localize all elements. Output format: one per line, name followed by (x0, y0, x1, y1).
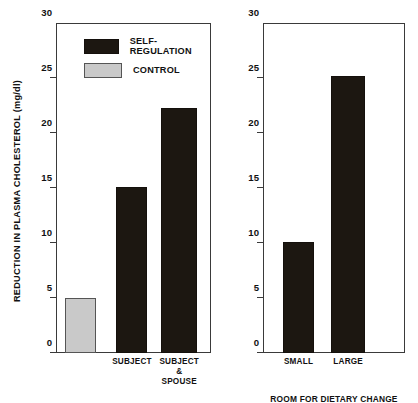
y-tick-label-10: 10 (41, 227, 52, 238)
bars-right (263, 23, 405, 353)
figure: REDUCTION IN PLASMA CHOLESTEROL (mg/dl) … (0, 0, 418, 403)
bar-control (65, 298, 96, 353)
y-tick-label-10-right: 10 (248, 227, 259, 238)
y-tick-label-20: 20 (41, 117, 52, 128)
x-category-small: SMALL (284, 357, 313, 367)
bar-small (283, 242, 314, 353)
x-category-subject-and-spouse: SUBJECT & SPOUSE (159, 357, 199, 387)
y-axis-title: REDUCTION IN PLASMA CHOLESTEROL (mg/dl) (12, 36, 22, 346)
y-tick-label-20-right: 20 (248, 117, 259, 128)
chart-panel-left: 0 5 10 15 20 25 30 SELF-REGULATION CONTR… (56, 23, 211, 353)
y-tick-label-0-right: 0 (254, 337, 259, 348)
bar-large (331, 76, 365, 353)
bar-subject (116, 187, 147, 353)
y-tick-label-25-right: 25 (248, 62, 259, 73)
y-tick-label-25: 25 (41, 62, 52, 73)
y-tick-label-5-right: 5 (254, 282, 259, 293)
x-category-large: LARGE (333, 357, 363, 367)
bar-subject-and-spouse (161, 108, 197, 353)
y-tick-label-30-right: 30 (248, 7, 259, 18)
y-tick-label-30: 30 (41, 7, 52, 18)
x-axis-title-right: ROOM FOR DIETARY CHANGE (263, 394, 405, 403)
y-tick-label-0: 0 (47, 337, 52, 348)
x-category-subject: SUBJECT (112, 357, 152, 367)
y-tick-label-15-right: 15 (248, 172, 259, 183)
y-tick-label-5: 5 (47, 282, 52, 293)
chart-panel-right: 0 5 10 15 20 25 30 SMALL LARGE ROOM FOR … (263, 23, 405, 353)
bars-left (56, 23, 211, 353)
y-tick-label-15: 15 (41, 172, 52, 183)
